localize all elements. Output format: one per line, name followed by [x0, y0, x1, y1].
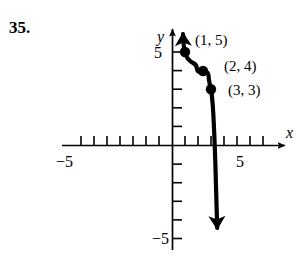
point-label-2-4: (2, 4)	[224, 58, 257, 75]
point-marker-3-3	[206, 84, 216, 94]
x-axis-ticks-negative	[81, 136, 159, 146]
y-tick-label-negative-5: −5	[152, 230, 169, 247]
y-axis-ticks-negative	[173, 164, 183, 238]
curve-main	[185, 52, 217, 228]
y-axis	[173, 29, 183, 250]
x-axis-ticks-positive	[185, 136, 263, 146]
figure-page: 35.	[0, 0, 307, 256]
x-axis-label: x	[285, 124, 293, 141]
point-label-1-5: (1, 5)	[195, 32, 228, 49]
x-tick-label-positive-5: 5	[236, 153, 244, 170]
y-axis-ticks-positive	[173, 52, 183, 126]
point-marker-1-5	[180, 47, 190, 57]
point-label-3-3: (3, 3)	[228, 82, 261, 99]
coordinate-graph: x y −5 5 5 −5 (1, 5) (2, 4) (3, 3)	[0, 0, 307, 256]
x-axis	[62, 136, 285, 146]
y-tick-label-positive-5: 5	[154, 44, 162, 61]
function-curve	[180, 34, 217, 228]
point-marker-2-4	[198, 66, 208, 76]
x-tick-label-negative-5: −5	[56, 153, 73, 170]
